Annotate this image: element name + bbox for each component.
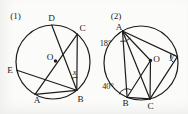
point-label-D: D <box>48 13 55 23</box>
circle-outline <box>16 25 90 99</box>
angle-label-18°: 18° <box>100 39 112 48</box>
center-dot <box>54 59 57 62</box>
point-label-A: A <box>34 95 41 105</box>
point-label-C: C <box>79 23 85 33</box>
chord-A-C <box>35 34 77 94</box>
point-label-C: C <box>147 101 153 111</box>
point-label-B: B <box>122 98 128 108</box>
chord-C-O <box>150 61 151 99</box>
chord-A-B <box>35 90 77 94</box>
point-label-O: O <box>47 52 54 62</box>
chord-C-B <box>77 34 78 90</box>
angle-label-y: y <box>169 52 174 61</box>
angle-label-x: x <box>72 68 77 77</box>
figure-svg: xDCEABO(1)18°40°yABCO(2) <box>0 0 188 114</box>
point-label-O: O <box>153 54 160 64</box>
angle-label-40°: 40° <box>102 82 114 91</box>
diagram-tag: (2) <box>111 11 122 21</box>
diagram-2: 18°40°yABCO(2) <box>100 11 178 111</box>
textbook-figure: xDCEABO(1)18°40°yABCO(2) <box>0 0 188 114</box>
center-dot <box>149 59 152 62</box>
chord-D-B <box>52 25 77 90</box>
chord-A-O <box>123 31 151 61</box>
point-label-E: E <box>7 65 13 75</box>
diagram-1: xDCEABO(1) <box>7 11 90 105</box>
point-label-A: A <box>116 22 123 32</box>
diagram-tag: (1) <box>10 11 21 21</box>
point-label-B: B <box>77 94 83 104</box>
circle-outline <box>104 26 178 100</box>
